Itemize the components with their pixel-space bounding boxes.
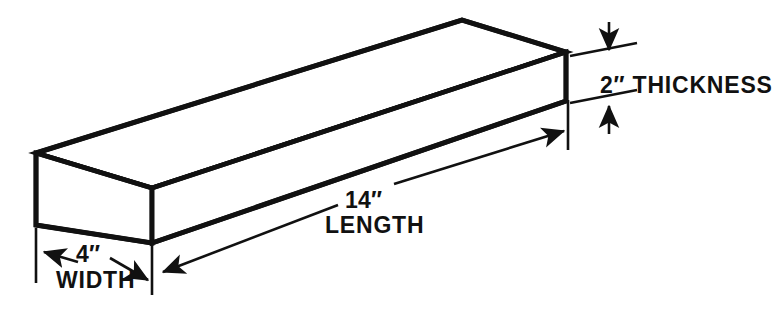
block-dimension-drawing: 2″ THICKNESS 14″ LENGTH 4″ WIDTH	[0, 0, 777, 309]
thickness-label: 2″ THICKNESS	[600, 72, 773, 98]
length-value: 14″	[345, 187, 382, 213]
width-label: WIDTH	[56, 267, 135, 293]
width-value: 4″	[76, 241, 100, 267]
length-label: LENGTH	[325, 212, 424, 238]
diagram-canvas: 2″ THICKNESS 14″ LENGTH 4″ WIDTH	[0, 0, 777, 309]
